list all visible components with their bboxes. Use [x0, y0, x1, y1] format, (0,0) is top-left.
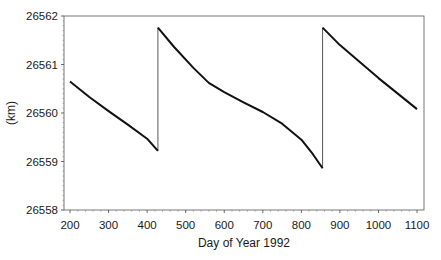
y-tick-label: 26558	[26, 204, 58, 216]
x-axis-title: Day of Year 1992	[198, 236, 290, 250]
x-axis: 20030040050060070080090010001100	[60, 210, 429, 231]
x-tick-label: 700	[253, 219, 272, 231]
x-tick-label: 1000	[366, 219, 392, 231]
y-axis-title: (km)	[4, 101, 18, 125]
y-tick-label: 26560	[26, 107, 58, 119]
y-tick-label: 26562	[26, 10, 58, 22]
y-axis: 2655826559265602656126562	[26, 10, 64, 216]
x-tick-label: 200	[60, 219, 79, 231]
x-tick-label: 800	[292, 219, 311, 231]
x-tick-label: 300	[99, 219, 118, 231]
data-series	[70, 28, 417, 169]
x-tick-label: 400	[138, 219, 157, 231]
x-tick-label: 600	[215, 219, 234, 231]
series-line	[70, 28, 417, 169]
x-tick-label: 500	[176, 219, 195, 231]
line-chart: 2655826559265602656126562 20030040050060…	[0, 0, 441, 260]
plot-frame	[64, 16, 424, 210]
y-tick-label: 26561	[26, 59, 58, 71]
x-tick-label: 900	[330, 219, 349, 231]
x-tick-label: 1100	[405, 219, 430, 231]
y-tick-label: 26559	[26, 156, 58, 168]
